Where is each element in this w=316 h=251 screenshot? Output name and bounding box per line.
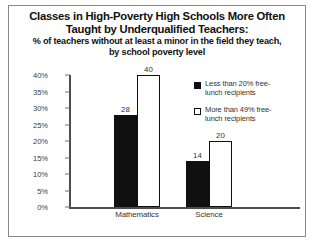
chart-legend: Less than 20% free- lunch recipients Mor… [194, 80, 302, 132]
y-tick-mark [65, 157, 70, 158]
y-tick-label: 25% [33, 120, 48, 129]
legend-item-high-poverty[interactable]: More than 49% free- lunch recipients [194, 106, 302, 123]
x-axis-label-science: Science [195, 210, 222, 219]
legend-label-high-poverty: More than 49% free- lunch recipients [205, 106, 271, 123]
legend-label-low-poverty: Less than 20% free- lunch recipients [205, 80, 270, 97]
x-axis-line [69, 207, 300, 209]
y-tick-mark [65, 91, 70, 92]
y-tick-label: 10% [33, 170, 48, 179]
y-tick-label: 35% [33, 87, 48, 96]
y-tick-mark [65, 190, 70, 191]
legend-label-line-2: lunch recipients [205, 88, 256, 97]
y-tick-mark [65, 108, 70, 109]
chart-title-line-2: Taught by Underqualified Teachers: [9, 23, 305, 36]
chart-subtitle-line-1: % of teachers without at least a minor i… [9, 36, 305, 46]
bar-value-label: 14 [193, 151, 202, 160]
y-tick-label: 0% [37, 203, 48, 212]
chart-title-block: Classes in High-Poverty High Schools Mor… [9, 10, 305, 57]
y-tick-label: 15% [33, 153, 48, 162]
legend-swatch-icon [194, 82, 201, 89]
bar-science-low-poverty[interactable]: 14 [186, 161, 209, 207]
legend-label-line-2: lunch recipients [205, 114, 256, 123]
y-tick-label: 5% [37, 186, 48, 195]
y-tick-mark [65, 174, 70, 175]
chart-subtitle-line-2: by school poverty level [9, 47, 305, 57]
legend-item-low-poverty[interactable]: Less than 20% free- lunch recipients [194, 80, 302, 97]
chart-subtitle-block: % of teachers without at least a minor i… [9, 36, 305, 57]
y-tick-mark [65, 141, 70, 142]
y-tick-mark [65, 207, 70, 208]
y-tick-label: 20% [33, 137, 48, 146]
bar-value-label: 40 [144, 65, 153, 74]
bar-science-high-poverty[interactable]: 20 [209, 141, 232, 207]
bar-mathematics-low-poverty[interactable]: 28 [114, 115, 137, 207]
bar-value-label: 28 [121, 105, 130, 114]
y-tick-mark [65, 75, 70, 76]
chart-title-line-1: Classes in High-Poverty High Schools Mor… [9, 10, 305, 23]
y-tick-mark [65, 124, 70, 125]
x-axis-label-mathematics: Mathematics [115, 210, 159, 219]
chart-figure: Classes in High-Poverty High Schools Mor… [8, 5, 306, 237]
bar-mathematics-high-poverty[interactable]: 40 [137, 75, 160, 207]
legend-swatch-icon [194, 108, 201, 115]
y-tick-label: 30% [33, 104, 48, 113]
y-tick-label: 40% [33, 71, 48, 80]
